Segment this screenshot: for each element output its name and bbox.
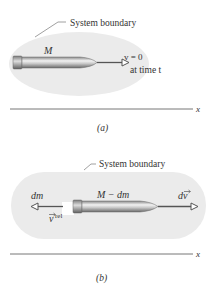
x-axis-label: x	[195, 104, 200, 114]
rocket	[73, 200, 158, 213]
mass-label: M	[43, 45, 53, 56]
boundary-label: System boundary	[99, 159, 165, 169]
panel-a: System boundary M v = 0 at time t x (a)	[9, 18, 200, 134]
rocket-body	[82, 201, 158, 212]
caption-b: (b)	[96, 273, 107, 284]
time-label: at time t	[130, 65, 161, 75]
rocket-nozzle	[13, 56, 22, 69]
panel-b: System boundary dm v rel M − dm dv x (b)	[10, 159, 206, 284]
rocket-nozzle	[73, 200, 82, 213]
rocket-body	[22, 57, 97, 68]
x-axis-label: x	[195, 249, 200, 259]
rocket	[13, 56, 97, 69]
exhaust-mass-label: dm	[31, 190, 43, 201]
boundary-leader-line	[84, 164, 96, 170]
caption-a: (a)	[97, 123, 108, 134]
rocket-system-diagram: System boundary M v = 0 at time t x (a) …	[0, 0, 219, 296]
svg-text:rel: rel	[55, 212, 62, 220]
exhaust-gap	[62, 202, 74, 215]
mass-label: M − dm	[96, 189, 129, 200]
boundary-label: System boundary	[70, 18, 136, 28]
velocity-label: v = 0	[124, 52, 143, 62]
